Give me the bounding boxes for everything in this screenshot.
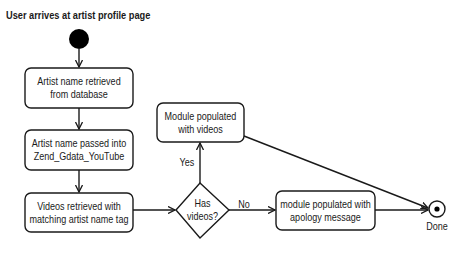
final-node-inner — [434, 206, 439, 211]
edge-label-no: No — [235, 198, 252, 211]
label-videos-retrieved: Videos retrieved with matching artist na… — [27, 193, 132, 232]
label-artist-name-retrieved: Artist name retrieved from database — [33, 68, 126, 108]
label-artist-name-passed: Artist name passed into Zend_Gdata_YouTu… — [28, 130, 129, 170]
activity-diagram: User arrives at artist profile page Arti… — [0, 0, 463, 253]
label-module-apology: module populated with apology message — [278, 191, 373, 230]
diagram-title: User arrives at artist profile page — [6, 9, 150, 21]
initial-node — [69, 29, 89, 49]
label-module-with-videos: Module populated with videos — [163, 103, 238, 142]
label-has-videos: Has videos? — [180, 196, 226, 224]
label-done: Done — [424, 220, 450, 233]
edge-label-yes: Yes — [178, 156, 197, 169]
